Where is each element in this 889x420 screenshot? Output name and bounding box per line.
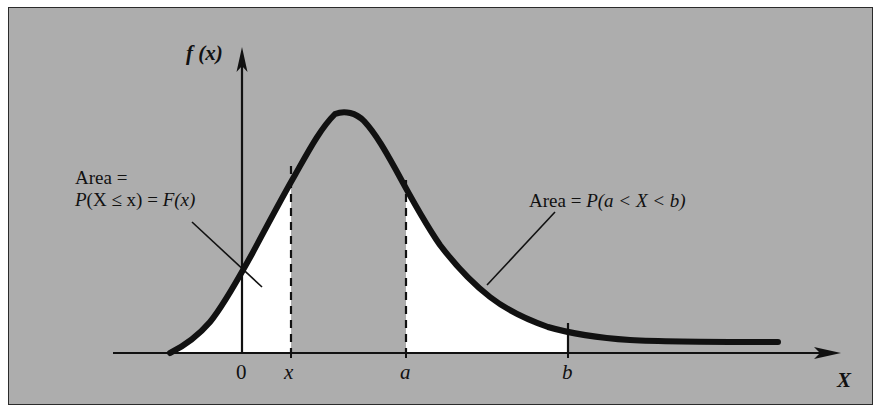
annotation-interval-body: P(a < X < b): [586, 190, 686, 211]
x-axis-label: X: [837, 368, 851, 393]
tick-label-0: 0: [236, 360, 247, 385]
leader-line-right: [487, 212, 555, 285]
y-axis-label: f (x): [186, 41, 223, 66]
annotation-cumulative-tail: F(x): [163, 189, 196, 210]
annotation-cumulative-body: (X ≤ x) =: [87, 189, 163, 210]
annotation-cumulative-line1: Area =: [75, 167, 195, 189]
annotation-cumulative-p: P: [75, 189, 87, 210]
annotation-cumulative-area: Area = P(X ≤ x) = F(x): [75, 167, 195, 212]
annotation-interval-area: Area = P(a < X < b): [529, 190, 686, 212]
tick-label-a: a: [400, 360, 411, 385]
annotation-interval-prefix: Area =: [529, 190, 586, 211]
tick-label-b: b: [562, 360, 573, 385]
annotation-cumulative-line2: P(X ≤ x) = F(x): [75, 189, 195, 211]
pdf-diagram-figure: f (x) X 0 x a b Area = P(X ≤ x) = F(x) A…: [0, 0, 889, 420]
tick-label-x: x: [284, 360, 293, 385]
